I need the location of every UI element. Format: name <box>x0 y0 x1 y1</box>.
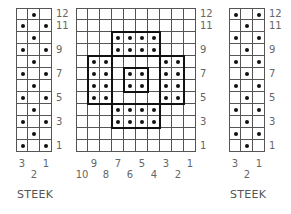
grid-cell <box>148 92 160 104</box>
grid-cell <box>28 80 40 92</box>
grid-cell <box>112 128 124 140</box>
contrast-stitch-dot-icon <box>176 84 180 88</box>
contrast-stitch-dot-icon <box>32 60 36 64</box>
grid-cell <box>253 20 265 32</box>
grid-cell <box>148 140 160 152</box>
grid-cell <box>184 128 196 140</box>
grid-cell <box>184 92 196 104</box>
row-number-label: 1 <box>269 141 275 151</box>
grid-cell <box>16 44 28 56</box>
grid-cell <box>16 68 28 80</box>
grid-cell <box>136 140 148 152</box>
grid-cell <box>88 56 100 68</box>
column-number-label: 4 <box>151 170 157 180</box>
grid-cell <box>28 20 40 32</box>
contrast-stitch-dot-icon <box>257 84 261 88</box>
column-number-label: 3 <box>163 159 169 169</box>
contrast-stitch-dot-icon <box>140 48 144 52</box>
grid-cell <box>253 92 265 104</box>
grid-cell <box>40 140 52 152</box>
row-number-label: 1 <box>56 141 62 151</box>
grid-cell <box>16 116 28 128</box>
grid-cell <box>28 128 40 140</box>
grid-cell <box>172 92 184 104</box>
grid-cell <box>241 56 253 68</box>
grid-cell <box>241 8 253 20</box>
grid-cell <box>88 104 100 116</box>
column-number-label: 9 <box>91 159 97 169</box>
grid-cell <box>241 140 253 152</box>
row-number-label: 11 <box>56 21 69 31</box>
grid-cell <box>253 32 265 44</box>
grid-cell <box>16 104 28 116</box>
grid-cell <box>112 20 124 32</box>
contrast-stitch-dot-icon <box>140 72 144 76</box>
contrast-stitch-dot-icon <box>234 13 238 17</box>
grid-cell <box>28 104 40 116</box>
grid-cell <box>124 20 136 32</box>
grid-cell <box>172 56 184 68</box>
grid-cell <box>28 56 40 68</box>
column-number-label: 1 <box>187 159 193 169</box>
grid-cell <box>100 8 112 20</box>
grid-cell <box>100 32 112 44</box>
grid-cell <box>148 80 160 92</box>
grid-cell <box>136 8 148 20</box>
contrast-stitch-dot-icon <box>245 96 249 100</box>
grid-cell <box>28 92 40 104</box>
contrast-stitch-dot-icon <box>116 36 120 40</box>
grid-cell <box>28 32 40 44</box>
grid-cell <box>241 44 253 56</box>
contrast-stitch-dot-icon <box>164 72 168 76</box>
grid-cell <box>229 32 241 44</box>
grid-cell <box>229 116 241 128</box>
grid-cell <box>112 140 124 152</box>
grid-cell <box>88 68 100 80</box>
row-number-label: 7 <box>56 69 62 79</box>
grid-cell <box>172 68 184 80</box>
grid-cell <box>148 44 160 56</box>
grid-cell <box>160 116 172 128</box>
grid-cell <box>28 140 40 152</box>
grid-cell <box>160 140 172 152</box>
contrast-stitch-dot-icon <box>152 48 156 52</box>
grid-cell <box>136 80 148 92</box>
contrast-stitch-dot-icon <box>152 36 156 40</box>
grid-cell <box>112 80 124 92</box>
grid-cell <box>148 128 160 140</box>
column-number-label: 6 <box>127 170 133 180</box>
grid-cell <box>16 140 28 152</box>
grid-cell <box>16 80 28 92</box>
grid-cell <box>253 68 265 80</box>
grid-cell <box>88 140 100 152</box>
grid-cell <box>160 68 172 80</box>
contrast-stitch-dot-icon <box>104 84 108 88</box>
grid-cell <box>88 20 100 32</box>
grid-cell <box>184 80 196 92</box>
grid-cell <box>172 8 184 20</box>
grid-cell <box>40 128 52 140</box>
contrast-stitch-dot-icon <box>21 144 25 148</box>
column-number-label: 2 <box>244 170 250 180</box>
grid-cell <box>124 68 136 80</box>
column-number-label: 7 <box>115 159 121 169</box>
grid-cell <box>160 80 172 92</box>
column-number-label: 3 <box>19 159 25 169</box>
grid-cell <box>136 32 148 44</box>
contrast-stitch-dot-icon <box>257 108 261 112</box>
grid-cell <box>136 128 148 140</box>
chart-title-steek: STEEK <box>17 188 53 201</box>
contrast-stitch-dot-icon <box>257 13 261 17</box>
grid-cell <box>100 116 112 128</box>
grid-cell <box>100 140 112 152</box>
contrast-stitch-dot-icon <box>44 96 48 100</box>
column-number-label: 10 <box>76 170 89 180</box>
grid-cell <box>160 8 172 20</box>
contrast-stitch-dot-icon <box>234 60 238 64</box>
grid-cell <box>28 116 40 128</box>
contrast-stitch-dot-icon <box>128 84 132 88</box>
row-number-label: 11 <box>269 21 282 31</box>
row-number-label: 7 <box>269 69 275 79</box>
column-number-label: 1 <box>43 159 49 169</box>
contrast-stitch-dot-icon <box>152 120 156 124</box>
